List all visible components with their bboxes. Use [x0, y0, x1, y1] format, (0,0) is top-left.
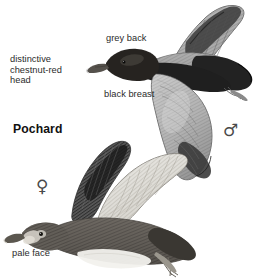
label-black-breast: black breast: [104, 89, 154, 100]
female-upper-wing: [72, 141, 131, 224]
female-feet: [160, 257, 178, 277]
male-black-breast: [130, 63, 231, 92]
male-feet: [224, 87, 245, 100]
label-pale-face: pale face: [12, 248, 50, 259]
male-chestnut-head: [106, 49, 159, 81]
female-body: [40, 218, 192, 264]
female-lower-wing: [96, 154, 188, 234]
label-grey-back: grey back: [106, 33, 147, 44]
label-distinctive-chestnut-red-head: distinctive chestnut-red head: [10, 54, 62, 86]
male-lower-wing: [151, 74, 212, 180]
female-symbol-icon: ♀: [36, 178, 48, 195]
female-bill: [4, 234, 25, 243]
species-name-pochard: Pochard: [13, 122, 62, 136]
female-head: [22, 222, 68, 250]
bird-illustration-plate: distinctive chestnut-red head grey back …: [0, 0, 274, 278]
female-pale-face-patch: [22, 229, 42, 245]
male-grey-back: [145, 53, 234, 79]
male-black-rear: [192, 55, 253, 90]
male-symbol-icon: ♂: [223, 122, 238, 139]
male-upper-wing: [168, 5, 244, 88]
male-bill: [87, 64, 109, 73]
female-tail: [148, 228, 196, 261]
female-pale-belly: [77, 249, 151, 268]
